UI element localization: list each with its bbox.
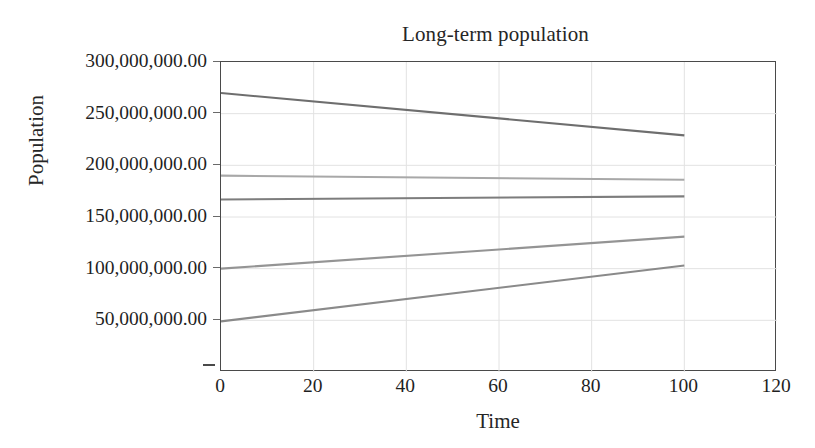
chart-figure: Long-term population Population 50,000,0…: [0, 0, 815, 448]
x-tick-label: 60: [488, 375, 508, 397]
x-tick-label: 0: [215, 375, 225, 397]
x-axis-tick-labels: 020406080100120: [0, 0, 815, 448]
x-tick-label: 120: [761, 375, 790, 397]
x-axis-title: Time: [220, 409, 776, 434]
x-tick-label: 40: [396, 375, 416, 397]
x-tick-label: 80: [581, 375, 601, 397]
x-tick-label: 20: [303, 375, 323, 397]
x-tick-label: 100: [669, 375, 698, 397]
